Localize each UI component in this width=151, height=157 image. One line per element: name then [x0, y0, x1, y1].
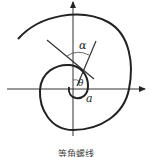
alpha-arc: [67, 52, 89, 56]
spiral-curve: [18, 15, 131, 130]
a-label: a: [86, 92, 93, 105]
figure-caption: 等角螺线: [0, 147, 151, 157]
tangent-line: [47, 40, 94, 79]
alpha-label: α: [79, 39, 87, 52]
theta-label: θ: [78, 78, 84, 88]
spiral-diagram: α θ a 等角螺线: [0, 0, 151, 157]
